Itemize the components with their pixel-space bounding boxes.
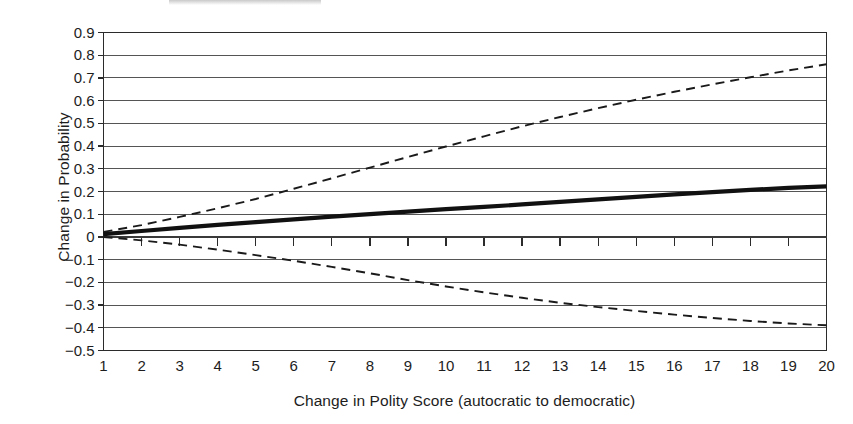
y-tick-label: 0.7: [74, 69, 95, 86]
y-tick-label: −0.5: [65, 342, 95, 359]
x-tick-label: 8: [350, 357, 390, 374]
x-tick-label: 18: [730, 357, 770, 374]
series-line-2: [104, 237, 827, 325]
y-tick-label: −0.4: [65, 319, 95, 336]
x-tick-label: 9: [388, 357, 428, 374]
y-tick-label: 0.8: [74, 46, 95, 63]
y-tick-label: −0.2: [65, 273, 95, 290]
y-tick-label: 0.9: [74, 24, 95, 41]
y-tick-label: 0.6: [74, 92, 95, 109]
y-tick-label: 0.4: [74, 137, 95, 154]
y-tick-label: −0.1: [65, 251, 95, 268]
x-tick-label: 15: [616, 357, 656, 374]
data-series-group: [104, 64, 827, 325]
x-tick-label: 3: [160, 357, 200, 374]
x-tick-label: 19: [768, 357, 808, 374]
y-tick-label: 0: [86, 228, 94, 245]
x-tick-label: 13: [540, 357, 580, 374]
x-tick-label: 4: [198, 357, 238, 374]
x-tick-label: 6: [274, 357, 314, 374]
x-tick-label: 20: [807, 357, 847, 374]
chart-figure: Change in Probability 0.90.80.70.60.50.4…: [0, 0, 853, 424]
x-tick-label: 10: [426, 357, 466, 374]
y-tick-label: 0.1: [74, 205, 95, 222]
y-tick-label: 0.2: [74, 183, 95, 200]
x-tick-marks-group: [104, 237, 827, 246]
x-tick-label: 12: [502, 357, 542, 374]
x-tick-label: 17: [692, 357, 732, 374]
y-tick-label: 0.5: [74, 114, 95, 131]
x-axis-title: Change in Polity Score (autocratic to de…: [103, 392, 826, 410]
x-tick-label: 7: [312, 357, 352, 374]
x-tick-label: 11: [464, 357, 504, 374]
x-tick-label: 16: [654, 357, 694, 374]
y-tick-label: −0.3: [65, 296, 95, 313]
x-tick-label: 14: [578, 357, 618, 374]
x-tick-label: 5: [236, 357, 276, 374]
y-tick-label: 0.3: [74, 160, 95, 177]
x-tick-label: 1: [84, 357, 124, 374]
x-tick-label: 2: [122, 357, 162, 374]
